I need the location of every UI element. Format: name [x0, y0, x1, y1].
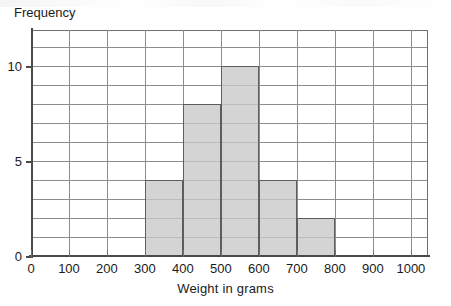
- y-tick-label: 10: [8, 60, 22, 73]
- gridline-vertical: [69, 30, 70, 256]
- y-tick-mark: [26, 66, 32, 68]
- x-tick-mark: [411, 250, 412, 257]
- x-tick-mark: [145, 250, 146, 257]
- y-axis-line: [31, 28, 33, 258]
- x-tick-mark: [335, 250, 336, 257]
- histogram-chart: Frequency 0510 0100200300400500600700800…: [0, 0, 451, 306]
- plot-right-border: [427, 30, 428, 256]
- histogram-bar: [221, 66, 259, 256]
- gridline-vertical: [335, 30, 336, 256]
- x-axis-title: Weight in grams: [0, 281, 451, 296]
- y-tick-mark: [26, 161, 32, 163]
- x-tick-mark: [183, 250, 184, 257]
- histogram-bar: [183, 104, 221, 256]
- x-tick-mark: [31, 250, 32, 257]
- x-tick-mark: [259, 250, 260, 257]
- y-tick-label: 5: [15, 155, 22, 168]
- x-axis-line: [29, 255, 430, 257]
- histogram-bar: [297, 218, 335, 256]
- histogram-bar: [145, 180, 183, 256]
- x-tick-mark: [221, 250, 222, 257]
- x-tick-mark: [107, 250, 108, 257]
- x-tick-mark: [373, 250, 374, 257]
- x-tick-mark: [69, 250, 70, 257]
- x-tick-mark: [297, 250, 298, 257]
- histogram-bar: [259, 180, 297, 256]
- gridline-vertical: [411, 30, 412, 256]
- x-tick-label: 1000: [386, 262, 436, 275]
- y-axis-title: Frequency: [14, 5, 75, 20]
- plot-area: [31, 30, 428, 256]
- gridline-vertical: [107, 30, 108, 256]
- gridline-vertical: [373, 30, 374, 256]
- plot-top-border: [31, 30, 428, 31]
- gridline-horizontal: [31, 47, 428, 48]
